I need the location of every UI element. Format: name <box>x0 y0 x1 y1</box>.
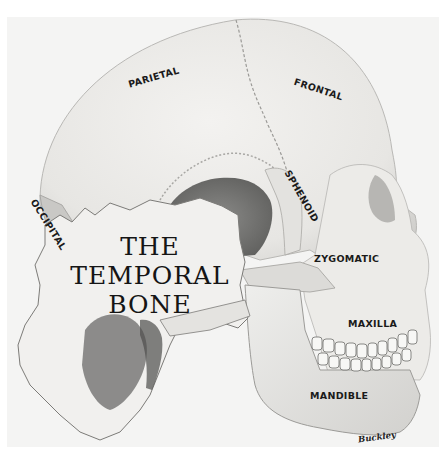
diagram-title: THE TEMPORAL BONE <box>55 232 245 319</box>
title-line-2: TEMPORAL <box>55 261 245 290</box>
title-line-3: BONE <box>55 290 245 319</box>
label-zygomatic: ZYGOMATIC <box>314 253 379 264</box>
title-line-1: THE <box>55 232 245 261</box>
label-mandible: MANDIBLE <box>310 390 368 401</box>
skull-illustration <box>0 0 447 459</box>
label-maxilla: MAXILLA <box>348 318 397 329</box>
